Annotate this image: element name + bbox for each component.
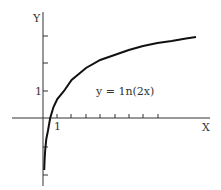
equation-label: y = 1n(2x)	[96, 86, 154, 97]
x-axis-label: X	[202, 122, 210, 133]
y-tick-label-1: 1	[35, 86, 42, 97]
x-ticks	[57, 114, 158, 118]
y-axis-label: Y	[33, 13, 40, 24]
ln-curve	[44, 37, 196, 170]
x-tick-label-1: 1	[54, 121, 61, 132]
